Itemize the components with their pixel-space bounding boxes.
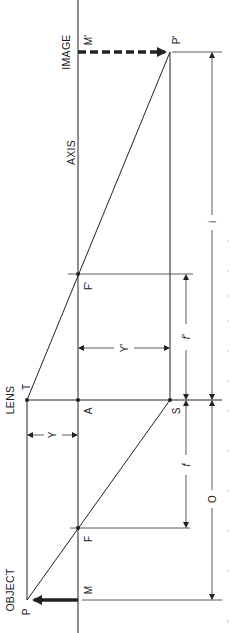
dim-o-label: O [207,495,218,503]
point-f [76,526,80,530]
dim-f-prime-label: f' [181,334,192,340]
label-f: F [83,536,94,542]
label-f-prime: F' [83,282,94,290]
dim-y-prime-label: Y' [119,344,130,353]
incident-ray [27,400,170,600]
label-t: T [21,384,32,390]
label-s: S [171,407,182,414]
dim-f-label: f [181,462,192,466]
label-p: P [21,608,32,615]
label-p-prime: P' [171,36,182,45]
label-a: A [83,407,94,414]
label-lens: LENS [4,386,16,415]
faint-caption [227,240,228,623]
label-m-prime: M' [83,35,94,45]
dim-i-label: i [207,221,218,223]
label-image: IMAGE [60,34,72,69]
lens-ray-diagram: Y Y' f' f i O IMAGE AXIS LENS OBJECT M' … [0,0,230,633]
point-a [76,398,80,402]
dim-y-label: Y [47,431,58,438]
label-axis: AXIS [65,140,77,165]
label-m: M [83,586,94,594]
label-object: OBJECT [4,568,16,612]
point-f-prime [76,272,80,276]
